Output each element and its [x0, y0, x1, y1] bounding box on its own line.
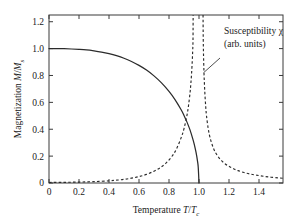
y-axis-label-sub: s — [18, 59, 25, 62]
y-tick-label: 0 — [39, 178, 44, 188]
y-tick-label: 0.8 — [32, 71, 44, 81]
x-tick-label: 0.2 — [73, 187, 85, 197]
x-tick-label: 0.4 — [103, 187, 115, 197]
y-tick-label: 1.2 — [32, 17, 44, 27]
annotation-line-1-text: Susceptibility — [224, 26, 279, 36]
x-axis-label-sub: c — [196, 210, 199, 217]
x-axis-tick-labels: 00.20.40.60.81.01.21.4 — [47, 187, 266, 197]
x-tick-label: 1.2 — [223, 187, 235, 197]
chi-symbol: χ — [278, 26, 284, 36]
figure-container: 00.20.40.60.81.01.21.4 00.20.40.60.81.01… — [0, 0, 295, 222]
y-axis-label-prefix: Magnetization — [13, 81, 23, 138]
x-tick-label: 1.4 — [253, 187, 265, 197]
x-tick-label: 0.8 — [163, 187, 175, 197]
y-tick-label: 1.0 — [32, 44, 44, 54]
x-tick-label: 0.6 — [133, 187, 145, 197]
x-tick-label: 0 — [47, 187, 52, 197]
y-axis-tick-labels: 00.20.40.60.81.01.2 — [32, 17, 44, 188]
y-tick-label: 0.4 — [32, 125, 44, 135]
x-tick-label: 1.0 — [193, 187, 205, 197]
x-axis-label-prefix: Temperature — [133, 205, 183, 215]
annotation-leader-line — [204, 58, 221, 73]
y-tick-label: 0.6 — [32, 98, 44, 108]
annotation-line-1: Susceptibility χ — [224, 26, 284, 36]
series-curve-0 — [49, 49, 199, 183]
y-tick-label: 0.2 — [32, 152, 44, 162]
x-axis-label: Temperature T/Tc — [133, 205, 200, 217]
series-curve-1 — [49, 15, 193, 182]
y-axis-label: Magnetization M/Ms — [13, 59, 25, 138]
annotation-line-2: (arb. units) — [224, 39, 266, 50]
chart-svg: 00.20.40.60.81.01.21.4 00.20.40.60.81.01… — [0, 0, 295, 222]
